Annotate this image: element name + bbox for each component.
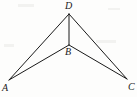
segment-DC xyxy=(69,14,127,79)
geometry-figure: D B A C xyxy=(0,0,137,97)
segment-BC xyxy=(69,45,127,79)
vertex-label-A: A xyxy=(2,83,8,93)
vertex-label-D: D xyxy=(65,1,72,11)
vertex-label-C: C xyxy=(128,82,135,92)
vertex-label-B: B xyxy=(65,47,71,57)
segment-DA xyxy=(9,14,69,80)
segment-BA xyxy=(9,45,69,80)
